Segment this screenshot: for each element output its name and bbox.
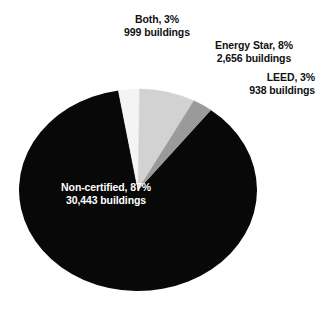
pie-chart: Both, 3% 999 buildings Energy Star, 8% 2… [0, 0, 319, 315]
pie-label-non-certified: Non-certified, 87% 30,443 buildings [38, 181, 174, 207]
pie-label-energy-star-line2: 2,656 buildings [192, 52, 316, 65]
pie-label-leed-line2: 938 buildings [196, 84, 315, 97]
pie-label-both-line1: Both, 3% [97, 13, 217, 26]
pie-label-leed-line1: LEED, 3% [196, 71, 315, 84]
pie-label-both-line2: 999 buildings [97, 26, 217, 39]
pie-label-leed: LEED, 3% 938 buildings [196, 71, 315, 97]
pie-label-non-certified-line1: Non-certified, 87% [38, 181, 174, 194]
pie-label-non-certified-line2: 30,443 buildings [38, 194, 174, 207]
pie-label-energy-star-line1: Energy Star, 8% [192, 39, 316, 52]
pie-label-energy-star: Energy Star, 8% 2,656 buildings [192, 39, 316, 65]
pie-label-both: Both, 3% 999 buildings [97, 13, 217, 39]
